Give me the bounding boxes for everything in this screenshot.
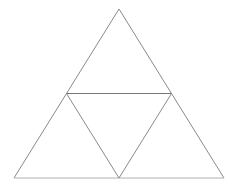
inner-right-edge [119, 94, 172, 179]
inner-left-edge [67, 94, 120, 179]
triangle-figure [0, 0, 238, 190]
figure-canvas [0, 0, 238, 190]
